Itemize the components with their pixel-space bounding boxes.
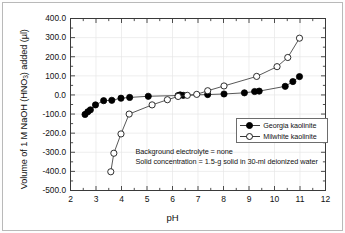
datapoint-georgia-kaolinite <box>282 83 288 89</box>
y-tick-label: 300.0 <box>18 32 66 42</box>
y-tick-label: -300.0 <box>18 147 66 157</box>
datapoint-milwhite-kaolinite <box>126 111 132 117</box>
x-tick-label: 6 <box>161 194 185 204</box>
y-tick-label: -100.0 <box>18 109 66 119</box>
datapoint-georgia-kaolinite <box>127 94 133 100</box>
y-tick-label: -400.0 <box>18 166 66 176</box>
x-tick-label: 5 <box>135 194 159 204</box>
x-tick-label: 4 <box>110 194 134 204</box>
datapoint-georgia-kaolinite <box>87 107 93 113</box>
x-tick-label: 3 <box>84 194 108 204</box>
datapoint-georgia-kaolinite <box>290 78 296 84</box>
datapoint-georgia-kaolinite <box>241 90 247 96</box>
annotation-solid-concentration: Solid concentration = 1.5-g solid in 30-… <box>136 157 318 166</box>
datapoint-milwhite-kaolinite <box>285 54 291 60</box>
x-tick-label: 11 <box>288 194 312 204</box>
datapoint-georgia-kaolinite <box>118 95 124 101</box>
y-tick-label: 0.0 <box>18 90 66 100</box>
datapoint-georgia-kaolinite <box>92 102 98 108</box>
y-tick-label: 400.0 <box>18 13 66 23</box>
datapoint-milwhite-kaolinite <box>164 97 170 103</box>
legend-label-milwhite-kaolinite: Milwhite kaolinite <box>263 132 316 141</box>
x-tick-label: 2 <box>59 194 83 204</box>
datapoint-milwhite-kaolinite <box>221 83 227 89</box>
y-tick-label: 100.0 <box>18 71 66 81</box>
filled-circle-icon <box>239 120 261 131</box>
datapoint-georgia-kaolinite <box>109 97 115 103</box>
x-axis-label: pH <box>0 212 345 223</box>
x-tick-label: 10 <box>263 194 287 204</box>
datapoint-milwhite-kaolinite <box>274 64 280 70</box>
datapoint-milwhite-kaolinite <box>175 93 181 99</box>
chart-legend: Georgia kaolinite Milwhite kaolinite <box>236 118 328 143</box>
datapoint-georgia-kaolinite <box>101 98 107 104</box>
legend-label-georgia-kaolinite: Georgia kaolinite <box>263 121 316 130</box>
datapoint-milwhite-kaolinite <box>111 150 117 156</box>
datapoint-georgia-kaolinite <box>296 74 302 80</box>
x-tick-label: 9 <box>237 194 261 204</box>
datapoint-milwhite-kaolinite <box>254 73 260 79</box>
datapoint-georgia-kaolinite <box>221 91 227 97</box>
x-tick-label: 8 <box>212 194 236 204</box>
x-tick-label: 7 <box>186 194 210 204</box>
datapoint-milwhite-kaolinite <box>205 88 211 94</box>
open-circle-icon <box>239 131 261 142</box>
y-tick-label: -200.0 <box>18 128 66 138</box>
datapoint-milwhite-kaolinite <box>296 35 302 41</box>
datapoint-milwhite-kaolinite <box>149 102 155 108</box>
datapoint-georgia-kaolinite <box>256 88 262 94</box>
y-tick-label: 200.0 <box>18 52 66 62</box>
datapoint-milwhite-kaolinite <box>108 169 114 175</box>
datapoint-georgia-kaolinite <box>145 93 151 99</box>
series-line-georgia-kaolinite <box>85 77 299 115</box>
legend-item-milwhite-kaolinite: Milwhite kaolinite <box>239 131 325 142</box>
annotation-background-electrolyte: Background electrolyte = none <box>136 147 233 156</box>
legend-item-georgia-kaolinite: Georgia kaolinite <box>239 120 325 131</box>
datapoint-milwhite-kaolinite <box>118 131 124 137</box>
datapoint-milwhite-kaolinite <box>184 92 190 98</box>
x-tick-label: 12 <box>314 194 338 204</box>
datapoint-milwhite-kaolinite <box>194 91 200 97</box>
figure-container: Volume of 1 M NaOH (HNO3) added (µl) pH … <box>0 0 345 233</box>
